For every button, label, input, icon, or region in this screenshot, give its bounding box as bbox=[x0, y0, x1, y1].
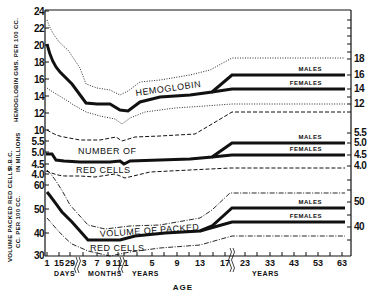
tick-label: 4.0 bbox=[32, 169, 45, 180]
left-axis-labels: 24 22 20 18 16 14 12 10 5.5 5.0 4.5 4.0 … bbox=[32, 6, 45, 261]
x-tick-label: 1 bbox=[44, 258, 49, 268]
tick-label: 20 bbox=[34, 40, 45, 51]
x-tick-label: 23 bbox=[240, 258, 250, 268]
tick-label: 14 bbox=[354, 83, 365, 94]
tick-label: 50 bbox=[354, 196, 365, 207]
x-axis-title: AGE bbox=[173, 283, 193, 292]
hemoglobin-axis-title: HEMOGLOBIN GMS. PER 100 CC. bbox=[13, 18, 19, 122]
x-tick-label: 1 bbox=[123, 258, 128, 268]
tick-label: 5.5 bbox=[32, 136, 45, 147]
rbc-axis-title-line1: R.B.C. bbox=[7, 150, 13, 170]
tick-label: 10 bbox=[34, 125, 45, 136]
tick-label: 18 bbox=[354, 53, 365, 64]
months-label: MONTHS bbox=[88, 270, 122, 277]
x-tick-label: 17 bbox=[220, 258, 230, 268]
tick-label: 12 bbox=[34, 108, 45, 119]
x-tick-label: 43 bbox=[289, 258, 299, 268]
tick-label: 22 bbox=[34, 23, 45, 34]
tick-label: 4.0 bbox=[354, 160, 367, 171]
volume-axis-title-line1: VOLUME PACKED RED CELLS bbox=[7, 167, 13, 262]
tick-label: 40 bbox=[354, 221, 365, 232]
hb-mean bbox=[47, 44, 345, 111]
x-tick-label: 13 bbox=[195, 258, 205, 268]
tick-label: 24 bbox=[34, 6, 45, 17]
days-label: DAYS bbox=[54, 270, 75, 277]
years-label-adult: YEARS bbox=[252, 270, 279, 277]
x-tick-label: 11 bbox=[112, 258, 122, 268]
tick-label: 30 bbox=[34, 250, 45, 261]
volume-annotation-line2: RED CELLS bbox=[90, 243, 145, 253]
hb-females bbox=[212, 89, 345, 92]
tick-label: 16 bbox=[354, 69, 365, 80]
right-axis-labels: 18 16 14 12 5.5 5.0 4.5 4.0 50 40 bbox=[354, 53, 367, 232]
rbc-males-label: MALES bbox=[299, 134, 323, 140]
rbc-annotation-line1: NUMBER OF bbox=[78, 146, 137, 156]
vol-males-label: MALES bbox=[299, 199, 323, 205]
vol-females bbox=[200, 222, 345, 231]
x-tick-label: 3 bbox=[81, 258, 86, 268]
rbc-females bbox=[212, 155, 345, 157]
y-axis-titles: HEMOGLOBIN GMS. PER 100 CC. R.B.C. IN MI… bbox=[7, 18, 21, 262]
x-tick-label: 5 bbox=[149, 258, 154, 268]
hemoglobin-panel bbox=[47, 20, 345, 124]
rbc-axis-title-line2: IN MILLIONS bbox=[15, 132, 21, 172]
tick-label: 5.0 bbox=[354, 137, 367, 148]
x-tick-label: 7 bbox=[94, 258, 99, 268]
x-tick-label: 53 bbox=[313, 258, 323, 268]
volume-axis-title-line2: CC. PER 100 CC. bbox=[15, 195, 21, 248]
vol-females-label: FEMALES bbox=[290, 213, 322, 219]
tick-label: 60 bbox=[34, 180, 45, 191]
tick-label: 5.0 bbox=[32, 147, 45, 158]
tick-label: 4.5 bbox=[354, 149, 367, 160]
tick-label: 50 bbox=[34, 204, 45, 215]
tick-label: 12 bbox=[354, 98, 365, 109]
tick-label: 40 bbox=[34, 228, 45, 239]
plot-frame bbox=[45, 10, 351, 256]
x-tick-label: 9 bbox=[105, 258, 110, 268]
x-unit-labels: DAYS MONTHS YEARS YEARS AGE bbox=[54, 270, 279, 292]
x-tick-label: 29 bbox=[65, 258, 75, 268]
volume-annotation-line1: VOLUME OF PACKED bbox=[99, 222, 199, 239]
hb-males-label: MALES bbox=[299, 66, 323, 72]
x-axis-labels: 1 15 29 3 7 9 11 1 5 9 13 17 23 33 43 53… bbox=[44, 258, 347, 268]
x-tick-label: 15 bbox=[54, 258, 64, 268]
rbc-annotation-line2: RED CELLS bbox=[76, 165, 131, 175]
x-tick-label: 33 bbox=[265, 258, 275, 268]
rbc-females-label: FEMALES bbox=[290, 146, 322, 152]
x-tick-label: 63 bbox=[337, 258, 347, 268]
tick-label: 18 bbox=[34, 57, 45, 68]
hb-females-label: FEMALES bbox=[290, 80, 322, 86]
tick-label: 14 bbox=[34, 91, 45, 102]
years-label-child: YEARS bbox=[132, 270, 159, 277]
tick-label: 16 bbox=[34, 74, 45, 85]
x-tick-label: 9 bbox=[174, 258, 179, 268]
blood-values-chart: 24 22 20 18 16 14 12 10 5.5 5.0 4.5 4.0 … bbox=[0, 0, 377, 299]
